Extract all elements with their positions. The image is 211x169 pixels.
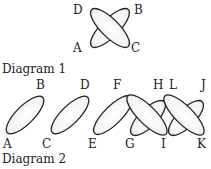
label-d2-A: A [3, 138, 12, 150]
diagram-canvas [0, 0, 211, 169]
diagram1-loops [85, 3, 134, 52]
diagram2-loops [1, 90, 209, 141]
label-d1-D: D [73, 4, 83, 16]
label-d1-B: B [134, 4, 143, 16]
label-d2-F: F [113, 79, 121, 91]
label-d2-B: B [36, 79, 45, 91]
label-d2-H: H [153, 79, 163, 91]
label-d2-J: J [201, 79, 206, 91]
label-d2-E: E [88, 138, 97, 150]
loop-CD-2 [46, 91, 94, 139]
label-d2-D: D [80, 79, 90, 91]
label-d2-L: L [169, 79, 177, 91]
diagram1-caption: Diagram 1 [2, 63, 66, 75]
label-d2-I: I [161, 138, 166, 150]
label-d1-C: C [131, 42, 140, 54]
label-d2-K: K [197, 138, 206, 150]
loop-AB-2 [1, 91, 49, 139]
label-d1-A: A [73, 42, 82, 54]
label-d2-C: C [42, 138, 51, 150]
label-d2-G: G [125, 138, 135, 150]
diagram2-caption: Diagram 2 [2, 153, 66, 165]
